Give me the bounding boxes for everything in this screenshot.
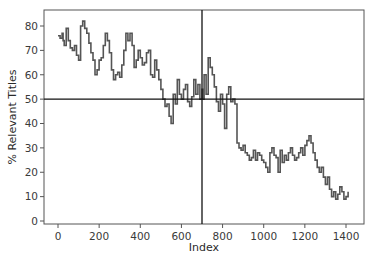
y-axis-label: % Relevant Titles [6,69,19,164]
y-tick-label: 50 [25,93,38,105]
y-axis-ticks: 01020304050607080 [25,20,44,227]
plot-frame [44,10,364,224]
y-tick-label: 0 [31,215,38,227]
y-tick-label: 10 [25,190,38,202]
x-tick-label: 1000 [250,230,277,242]
x-axis-label: Index [189,241,220,254]
x-tick-label: 200 [89,230,109,242]
x-axis-ticks: 0200400600800100012001400 [55,224,360,242]
line-chart: 01020304050607080 0200400600800100012001… [0,0,373,260]
x-tick-label: 1200 [291,230,318,242]
y-tick-label: 80 [25,20,38,32]
y-tick-label: 20 [25,166,38,178]
x-tick-label: 400 [130,230,150,242]
y-tick-label: 40 [25,117,38,129]
x-tick-label: 1400 [333,230,360,242]
y-tick-label: 60 [25,69,38,81]
plot-area: 01020304050607080 0200400600800100012001… [25,10,364,242]
y-tick-label: 30 [25,142,38,154]
y-tick-label: 70 [25,44,38,56]
x-tick-label: 0 [55,230,62,242]
